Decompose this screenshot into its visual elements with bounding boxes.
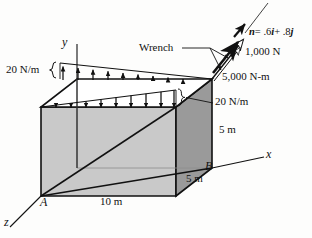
n-vector-plus: + .8	[274, 26, 290, 37]
point-b-label: B	[205, 160, 212, 172]
z-axis-label: z	[4, 216, 9, 228]
point-a-label: A	[40, 196, 47, 208]
upper-load-label: 20 N/m	[6, 64, 39, 75]
x-axis	[212, 157, 264, 168]
wrench-direction-label: n= .6i+ .8j	[249, 27, 294, 38]
upper-load-envelope	[60, 63, 212, 79]
lower-load-label: 20 N/m	[215, 96, 248, 107]
n-vector-eq: = .6	[255, 26, 271, 37]
wrench-force-label: 1,000 N	[245, 46, 280, 57]
j-unit-symbol: j	[291, 26, 294, 37]
dimension-height-label: 5 m	[219, 124, 236, 135]
dimension-length-label: 10 m	[100, 196, 122, 207]
wrench-n-arrow	[234, 24, 245, 37]
upper-load-arrows	[63, 67, 183, 81]
z-axis	[10, 196, 41, 227]
x-axis-label: x	[266, 148, 271, 160]
upper-load-brace	[50, 62, 56, 78]
figure-root: 20 N/m 20 N/m y x z A B 10 m 5 m 5 m Wre…	[0, 0, 312, 238]
wrench-callout-label: Wrench	[139, 42, 173, 53]
wrench-moment-label: 5,000 N-m	[222, 71, 270, 82]
wrench-force-arrow	[213, 42, 238, 73]
dimension-depth-label: 5 m	[186, 173, 203, 184]
y-axis-label: y	[62, 36, 67, 48]
